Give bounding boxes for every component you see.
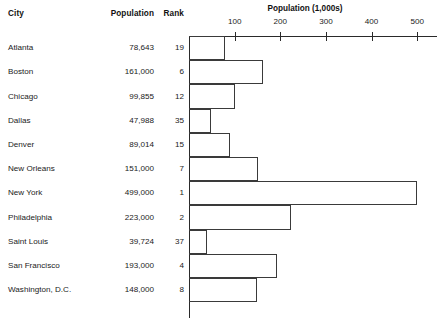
bar bbox=[189, 230, 207, 254]
x-axis-tick bbox=[417, 32, 418, 41]
chart-title: Population (1,000s) bbox=[240, 4, 370, 13]
bar bbox=[189, 133, 230, 157]
bar bbox=[189, 181, 417, 205]
x-axis-tick-label: 400 bbox=[352, 17, 392, 26]
x-axis-tick-label: 100 bbox=[215, 17, 255, 26]
bar bbox=[189, 84, 235, 108]
x-axis-tick-label: 300 bbox=[306, 17, 346, 26]
population-bar-chart-figure: City Population Rank Atlanta78,64319Bost… bbox=[0, 0, 446, 328]
x-axis-tick bbox=[235, 32, 236, 41]
x-axis-line bbox=[189, 36, 437, 37]
bar bbox=[189, 36, 225, 60]
bar bbox=[189, 205, 291, 229]
chart-area: Population (1,000s) 100200300400500 bbox=[0, 0, 446, 328]
bar bbox=[189, 109, 211, 133]
bar bbox=[189, 157, 258, 181]
bar bbox=[189, 254, 277, 278]
x-axis-tick-label: 500 bbox=[397, 17, 437, 26]
bar bbox=[189, 278, 257, 302]
bar bbox=[189, 60, 263, 84]
x-axis-tick-label: 200 bbox=[260, 17, 300, 26]
x-axis-tick bbox=[326, 32, 327, 41]
x-axis-tick bbox=[372, 32, 373, 41]
x-axis-tick bbox=[280, 32, 281, 41]
